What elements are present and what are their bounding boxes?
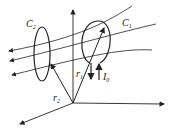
label-c1: C1 xyxy=(122,17,132,29)
label-c2: C2 xyxy=(26,18,36,30)
label-i0: I0 xyxy=(102,71,109,83)
diagram-canvas: C2 C1 r1 r2 I0 xyxy=(0,0,171,135)
loop-c2 xyxy=(34,27,50,81)
label-r1: r1 xyxy=(76,68,83,80)
label-r2: r2 xyxy=(53,92,60,104)
y-axis xyxy=(73,103,164,104)
x-axis xyxy=(20,103,73,124)
